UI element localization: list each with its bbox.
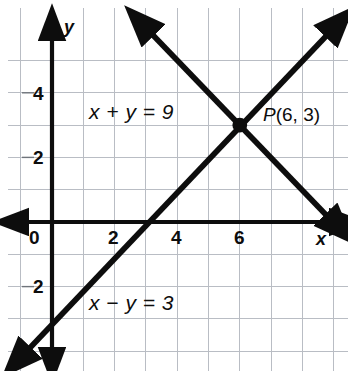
x-tick-label-6: 6 (234, 228, 245, 247)
intersection-point-marker (232, 118, 247, 133)
coordinate-graph-figure: y x 0 2 4 6 4 2 2 x + y = 9 x − y = 3 P(… (0, 0, 348, 371)
equation-label-line2: x − y = 3 (89, 292, 174, 313)
equation-label-line1: x + y = 9 (89, 101, 174, 122)
origin-tick-label: 0 (29, 228, 40, 247)
graph-canvas (0, 0, 348, 371)
y-axis-label: y (64, 18, 74, 36)
x-tick-label-2: 2 (108, 228, 119, 247)
x-tick-label-4: 4 (171, 228, 182, 247)
y-tick-label-2: 2 (33, 148, 44, 167)
intersection-point-coords: (6, 3) (276, 104, 320, 125)
y-tick-label-negative-2: 2 (33, 277, 44, 296)
intersection-point-name: P (263, 104, 276, 125)
x-axis-label: x (316, 230, 326, 248)
intersection-point-label: P(6, 3) (263, 105, 320, 124)
y-tick-label-4: 4 (33, 84, 44, 103)
line-x-minus-y-equals-3 (26, 32, 330, 352)
